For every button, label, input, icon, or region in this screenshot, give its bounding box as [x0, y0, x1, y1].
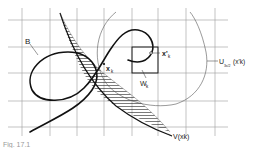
label-b: B [25, 37, 30, 46]
point-xk-prime [150, 52, 153, 55]
grid [8, 8, 228, 136]
label-v: V(xk) [173, 133, 189, 141]
label-u-sub: 3ε/2 [224, 64, 230, 68]
figure-caption: Fig. 17.1 [3, 141, 30, 148]
label-xk: x [106, 65, 110, 72]
region-v-upper-edge [60, 13, 170, 132]
point-xk [103, 63, 105, 65]
leader-b [30, 44, 38, 55]
leader-wk [142, 70, 146, 78]
label-u-arg: (x'k) [233, 58, 245, 66]
label-wk-sub: k [146, 84, 149, 89]
label-xk-prime-sub: k [168, 54, 171, 59]
diagram-figure: B x k x' k W k U 3ε/2 (x'k) V(xk) [0, 0, 260, 148]
label-xk-prime: x' [162, 50, 168, 57]
